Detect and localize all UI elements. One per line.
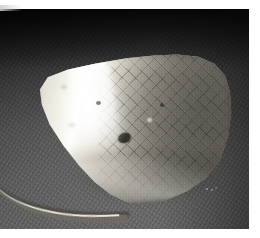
frame-margin-bottom xyxy=(0,229,260,238)
frame-top-left-sliver xyxy=(0,5,22,11)
photograph xyxy=(0,9,249,229)
photo-viewport: Close-up grayscale photo of a fan-shaped… xyxy=(0,0,260,238)
film-grain-overlay xyxy=(0,9,249,229)
frame-margin-top xyxy=(0,0,260,9)
frame-margin-right xyxy=(249,0,260,238)
